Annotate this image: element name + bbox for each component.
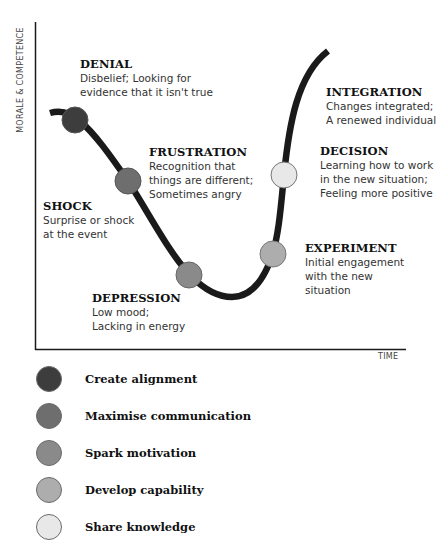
stage-desc: Initial engagement bbox=[305, 255, 404, 269]
stage-desc: evidence that it isn't true bbox=[80, 85, 213, 99]
y-axis-label: MORALE & COMPETENCE bbox=[16, 25, 30, 135]
stage-desc: at the event bbox=[43, 227, 134, 241]
frustration-marker bbox=[115, 168, 141, 194]
x-axis-label: TIME bbox=[378, 352, 398, 361]
stage-desc: Learning how to work bbox=[320, 158, 433, 172]
legend-label: Share knowledge bbox=[85, 520, 195, 534]
stage-title: DECISION bbox=[320, 144, 433, 158]
stage-desc: in the new situation; bbox=[320, 172, 433, 186]
stage-desc: A renewed individual bbox=[326, 113, 436, 127]
stage-shock: SHOCK Surprise or shock at the event bbox=[43, 199, 134, 241]
stage-title: DEPRESSION bbox=[92, 291, 185, 305]
stage-integration: INTEGRATION Changes integrated; A renewe… bbox=[326, 85, 436, 127]
depression-marker bbox=[176, 262, 202, 288]
stage-title: EXPERIMENT bbox=[305, 241, 404, 255]
stage-desc: Feeling more positive bbox=[320, 186, 433, 200]
experiment-marker bbox=[260, 241, 286, 267]
legend-item-develop-capability: Develop capability bbox=[36, 476, 203, 504]
legend-item-share-knowledge: Share knowledge bbox=[36, 513, 195, 541]
denial-marker bbox=[62, 107, 88, 133]
stage-frustration: FRUSTRATION Recognition that things are … bbox=[149, 145, 253, 201]
legend-label: Create alignment bbox=[85, 372, 197, 386]
stage-desc: situation bbox=[305, 283, 404, 297]
decision-marker bbox=[271, 162, 297, 188]
circle-icon bbox=[36, 403, 62, 429]
stage-title: SHOCK bbox=[43, 199, 134, 213]
stage-depression: DEPRESSION Low mood; Lacking in energy bbox=[92, 291, 185, 333]
circle-icon bbox=[36, 477, 62, 503]
stage-title: INTEGRATION bbox=[326, 85, 436, 99]
stage-desc: Surprise or shock bbox=[43, 213, 134, 227]
stage-desc: Sometimes angry bbox=[149, 187, 253, 201]
stage-desc: Disbelief; Looking for bbox=[80, 71, 213, 85]
stage-desc: with the new bbox=[305, 269, 404, 283]
legend-item-create-alignment: Create alignment bbox=[36, 365, 197, 393]
legend-label: Maximise communication bbox=[85, 409, 251, 423]
stage-desc: Lacking in energy bbox=[92, 319, 185, 333]
legend-label: Develop capability bbox=[85, 483, 203, 497]
stage-title: FRUSTRATION bbox=[149, 145, 253, 159]
stage-experiment: EXPERIMENT Initial engagement with the n… bbox=[305, 241, 404, 297]
stage-decision: DECISION Learning how to work in the new… bbox=[320, 144, 433, 200]
legend-item-spark-motivation: Spark motivation bbox=[36, 439, 196, 467]
circle-icon bbox=[36, 514, 62, 540]
stage-title: DENIAL bbox=[80, 57, 213, 71]
legend-label: Spark motivation bbox=[85, 446, 196, 460]
circle-icon bbox=[36, 440, 62, 466]
stage-denial: DENIAL Disbelief; Looking for evidence t… bbox=[80, 57, 213, 99]
stage-desc: Low mood; bbox=[92, 305, 185, 319]
circle-icon bbox=[36, 366, 62, 392]
stage-desc: Changes integrated; bbox=[326, 99, 436, 113]
stage-desc: Recognition that bbox=[149, 159, 253, 173]
legend-item-maximise-communication: Maximise communication bbox=[36, 402, 251, 430]
stage-desc: things are different; bbox=[149, 173, 253, 187]
